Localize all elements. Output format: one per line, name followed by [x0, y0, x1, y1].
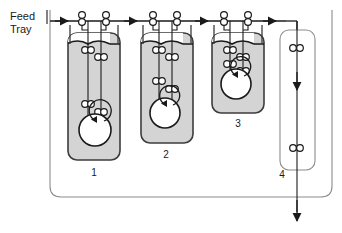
process-flow-diagram: Feed Tray [0, 0, 342, 233]
vessel-2: 2 [139, 21, 195, 160]
top-header-fittings [79, 12, 252, 26]
vessel-1: 1 [66, 21, 122, 178]
column-4-label: 4 [279, 169, 285, 180]
feed-tray-label: Feed Tray [10, 10, 35, 35]
feed-label-line2: Tray [10, 23, 32, 35]
vessel-2-label: 2 [163, 149, 169, 160]
column-4: 4 [279, 21, 315, 212]
feed-label-line1: Feed [10, 10, 35, 22]
vessel-1-label: 1 [91, 167, 97, 178]
diagram-canvas: Feed Tray [0, 0, 342, 233]
vessel-3: 3 [210, 21, 266, 129]
vessel-3-label: 3 [235, 118, 241, 129]
